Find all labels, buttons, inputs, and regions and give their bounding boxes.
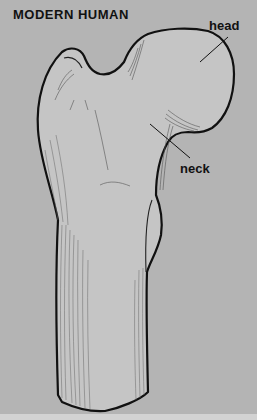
bottom-border (0, 414, 257, 420)
label-head: head (209, 18, 239, 33)
label-neck: neck (180, 161, 210, 176)
femur-illustration (0, 0, 257, 420)
figure-panel: MODERN HUMAN (0, 0, 257, 420)
femur-outline (38, 29, 234, 412)
